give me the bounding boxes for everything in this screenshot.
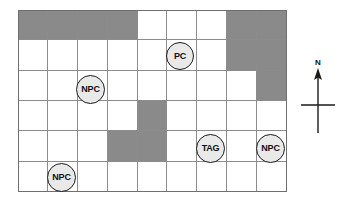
token-npc-bottom[interactable]: NPC bbox=[47, 163, 76, 192]
token-npc-left[interactable]: NPC bbox=[76, 75, 105, 104]
grid-cell-r3-c7[interactable] bbox=[197, 71, 227, 101]
grid-cell-r4-c1[interactable] bbox=[18, 101, 48, 131]
grid-cell-r2-c7[interactable] bbox=[197, 40, 227, 70]
token-label: NPC bbox=[52, 173, 70, 182]
grid-cell-r1-c6[interactable] bbox=[167, 10, 197, 40]
grid-cell-r6-c1[interactable] bbox=[18, 162, 48, 192]
grid-cell-r5-c2[interactable] bbox=[48, 131, 78, 161]
grid-cell-r3-c8[interactable] bbox=[227, 71, 257, 101]
grid-cell-r4-c9[interactable] bbox=[257, 101, 287, 131]
grid-cell-r4-c3[interactable] bbox=[78, 101, 108, 131]
grid-cell-r2-c8[interactable] bbox=[227, 40, 257, 70]
compass-needle-icon bbox=[296, 67, 340, 136]
grid-cell-r5-c1[interactable] bbox=[18, 131, 48, 161]
grid-cell-r3-c2[interactable] bbox=[48, 71, 78, 101]
grid-cell-r2-c3[interactable] bbox=[78, 40, 108, 70]
token-tag[interactable]: TAG bbox=[196, 134, 225, 163]
grid-cell-r6-c4[interactable] bbox=[108, 162, 138, 192]
grid-cell-r2-c4[interactable] bbox=[108, 40, 138, 70]
grid-cell-r4-c5[interactable] bbox=[138, 101, 168, 131]
compass-rose: N bbox=[296, 58, 340, 136]
grid-cell-r1-c4[interactable] bbox=[108, 10, 138, 40]
grid-cell-r3-c4[interactable] bbox=[108, 71, 138, 101]
grid-cell-r5-c4[interactable] bbox=[108, 131, 138, 161]
grid-cell-r5-c6[interactable] bbox=[167, 131, 197, 161]
grid-cell-r2-c1[interactable] bbox=[18, 40, 48, 70]
grid-cell-r4-c2[interactable] bbox=[48, 101, 78, 131]
grid-cell-r1-c5[interactable] bbox=[138, 10, 168, 40]
grid-cell-r6-c8[interactable] bbox=[227, 162, 257, 192]
token-pc[interactable]: PC bbox=[166, 42, 194, 70]
grid-cell-r6-c3[interactable] bbox=[78, 162, 108, 192]
grid-cell-r4-c8[interactable] bbox=[227, 101, 257, 131]
grid-cell-r2-c2[interactable] bbox=[48, 40, 78, 70]
token-npc-right[interactable]: NPC bbox=[256, 134, 285, 163]
token-label: NPC bbox=[261, 144, 279, 153]
grid-cell-r6-c9[interactable] bbox=[257, 162, 287, 192]
grid-cell-r6-c7[interactable] bbox=[197, 162, 227, 192]
token-label: TAG bbox=[202, 144, 220, 153]
grid-cell-r6-c6[interactable] bbox=[167, 162, 197, 192]
grid-map-figure: PCNPCTAGNPCNPC N bbox=[0, 0, 344, 204]
grid-cell-r2-c9[interactable] bbox=[257, 40, 287, 70]
grid-cell-r1-c3[interactable] bbox=[78, 10, 108, 40]
compass-north-label: N bbox=[296, 58, 340, 67]
token-label: PC bbox=[174, 52, 186, 61]
grid-cell-r3-c9[interactable] bbox=[257, 71, 287, 101]
grid-cell-r5-c5[interactable] bbox=[138, 131, 168, 161]
grid-cell-r1-c9[interactable] bbox=[257, 10, 287, 40]
token-label: NPC bbox=[81, 85, 99, 94]
grid-cell-r5-c3[interactable] bbox=[78, 131, 108, 161]
grid-cell-r1-c7[interactable] bbox=[197, 10, 227, 40]
grid-cell-r1-c8[interactable] bbox=[227, 10, 257, 40]
grid-cell-r1-c2[interactable] bbox=[48, 10, 78, 40]
grid-cell-r4-c4[interactable] bbox=[108, 101, 138, 131]
grid-cell-r6-c5[interactable] bbox=[138, 162, 168, 192]
grid-cell-r3-c5[interactable] bbox=[138, 71, 168, 101]
grid-cell-r5-c8[interactable] bbox=[227, 131, 257, 161]
grid-cell-r3-c1[interactable] bbox=[18, 71, 48, 101]
grid-cell-r3-c6[interactable] bbox=[167, 71, 197, 101]
grid-cell-r4-c7[interactable] bbox=[197, 101, 227, 131]
grid-cell-r4-c6[interactable] bbox=[167, 101, 197, 131]
grid-cell-r1-c1[interactable] bbox=[18, 10, 48, 40]
grid-cell-r2-c5[interactable] bbox=[138, 40, 168, 70]
